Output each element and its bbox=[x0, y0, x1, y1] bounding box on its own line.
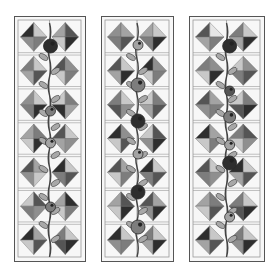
berry-icon bbox=[225, 212, 235, 222]
berry-center bbox=[50, 204, 53, 207]
berry-center bbox=[50, 41, 54, 45]
berry-center bbox=[138, 80, 142, 84]
leaf-icon bbox=[227, 122, 238, 132]
berry-icon bbox=[133, 149, 143, 159]
berry-icon bbox=[133, 40, 143, 50]
berry-icon bbox=[223, 39, 237, 53]
hourglass-block bbox=[108, 158, 135, 187]
berry-center bbox=[230, 214, 233, 217]
leaf-icon bbox=[227, 178, 238, 188]
berry-icon bbox=[131, 185, 145, 199]
hourglass-block bbox=[196, 56, 225, 85]
leaf-icon bbox=[215, 52, 226, 62]
hourglass-block bbox=[196, 23, 225, 52]
berry-center bbox=[50, 140, 53, 143]
leaf-icon bbox=[38, 80, 49, 90]
right-panel bbox=[189, 16, 265, 262]
berry-center bbox=[138, 187, 142, 191]
berry-center bbox=[230, 158, 234, 162]
berry-icon bbox=[45, 138, 55, 148]
berry-center bbox=[50, 108, 53, 111]
berry-icon bbox=[223, 156, 237, 170]
leaf-icon bbox=[50, 150, 61, 160]
leaf-icon bbox=[125, 52, 136, 62]
berry-icon bbox=[45, 202, 55, 212]
berry-center bbox=[230, 41, 234, 45]
middle-panel bbox=[101, 16, 174, 262]
hourglass-block bbox=[108, 226, 135, 255]
berry-center bbox=[230, 88, 233, 91]
hourglass-block bbox=[140, 90, 167, 119]
leaf-icon bbox=[38, 52, 49, 62]
leaf-icon bbox=[50, 178, 61, 188]
hourglass-block bbox=[21, 56, 48, 85]
berry-icon bbox=[224, 111, 236, 123]
berry-icon bbox=[225, 86, 235, 96]
hourglass-block bbox=[140, 23, 167, 52]
left-panel bbox=[14, 16, 86, 262]
berry-center bbox=[230, 113, 234, 117]
hourglass-block bbox=[108, 23, 135, 52]
hourglass-block bbox=[108, 56, 135, 85]
berry-icon bbox=[131, 78, 145, 92]
hourglass-block bbox=[21, 158, 48, 187]
hourglass-block bbox=[21, 226, 48, 255]
hourglass-block bbox=[21, 23, 48, 52]
berry-center bbox=[230, 142, 233, 145]
berry-center bbox=[138, 42, 141, 45]
berry-icon bbox=[45, 106, 55, 116]
hourglass-block bbox=[52, 90, 79, 119]
hourglass-block bbox=[52, 192, 79, 221]
berry-center bbox=[138, 151, 141, 154]
berry-icon bbox=[225, 140, 235, 150]
leaf-icon bbox=[215, 80, 226, 90]
berry-center bbox=[138, 116, 142, 120]
hourglass-block bbox=[196, 226, 225, 255]
berry-center bbox=[138, 222, 142, 226]
hourglass-block bbox=[196, 158, 225, 187]
berry-icon bbox=[43, 39, 57, 53]
berry-icon bbox=[131, 220, 145, 234]
berry-icon bbox=[131, 114, 145, 128]
